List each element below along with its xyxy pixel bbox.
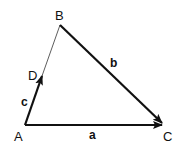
diagram-svg: B A C D a b c	[0, 0, 181, 152]
vector-triangle-diagram: B A C D a b c	[0, 0, 181, 152]
point-label-d: D	[28, 68, 37, 83]
vector-label-a: a	[89, 128, 96, 142]
vector-label-b: b	[110, 56, 117, 70]
segment-db	[42, 25, 60, 76]
point-label-b: B	[55, 8, 64, 23]
point-label-a: A	[14, 129, 23, 144]
vector-b-arrow	[60, 25, 162, 123]
vector-label-c: c	[21, 95, 28, 109]
point-label-c: C	[163, 129, 172, 144]
